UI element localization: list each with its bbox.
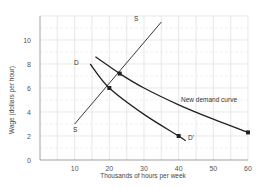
new-demand-curve (95, 57, 248, 133)
data-point-marker (118, 72, 122, 76)
demand-label-end: D' (188, 134, 194, 141)
x-tick-label: 30 (140, 165, 148, 172)
supply-label-top: S (134, 15, 139, 22)
y-tick-labels: 0246810 (23, 37, 31, 164)
x-tick-label: 60 (244, 165, 252, 172)
x-tick-labels: 102030405060 (71, 165, 252, 172)
y-tick-label: 0 (27, 157, 31, 164)
x-tick-label: 10 (71, 165, 79, 172)
x-tick-label: 40 (175, 165, 183, 172)
x-tick-label: 20 (105, 165, 113, 172)
y-tick-label: 8 (27, 61, 31, 68)
demand-label-start: D (74, 59, 79, 66)
x-tick-label: 50 (209, 165, 217, 172)
y-tick-label: 6 (27, 85, 31, 92)
data-point-marker (246, 130, 250, 134)
demand-curve (90, 64, 185, 141)
supply-label-bottom: S (73, 126, 78, 133)
x-axis-label: Thousands of hours per week (100, 172, 186, 180)
y-tick-label: 2 (27, 133, 31, 140)
y-tick-label: 10 (23, 37, 31, 44)
new-demand-curve-label: New demand curve (181, 96, 237, 103)
data-point-marker (177, 134, 181, 138)
y-tick-label: 4 (27, 109, 31, 116)
labor-market-chart: 102030405060 0246810 Thousands of hours … (0, 0, 264, 188)
data-point-marker (107, 86, 111, 90)
y-axis-label: Wage (dollars per hour) (8, 66, 16, 134)
